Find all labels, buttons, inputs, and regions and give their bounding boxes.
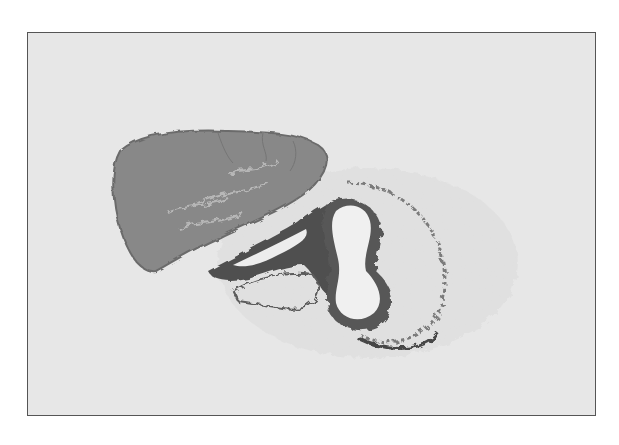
histology-image — [28, 33, 595, 415]
film-grain — [28, 33, 595, 415]
micrograph-frame — [27, 32, 596, 416]
